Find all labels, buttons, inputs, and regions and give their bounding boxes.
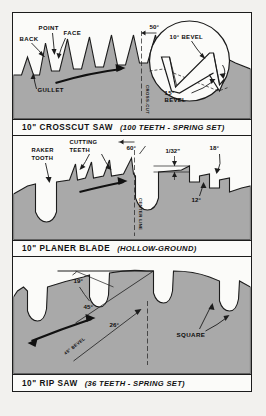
label-face: FACE [64,30,82,36]
caption-planer: 10" PLANER BLADE (HOLLOW-GROUND) [13,240,251,257]
label-angle-19: 19° [74,277,84,284]
caption-crosscut: 10" CROSSCUT SAW (100 TEETH - SPRING SET… [13,119,251,136]
saw-blade-figure: CROSS-CUT 50° BACK POINT FACE [0,0,266,416]
label-center-line: CROSS-CUT [145,85,150,114]
figure-frame: CROSS-CUT 50° BACK POINT FACE [12,12,252,392]
planer-artwork: CENTER LINE 60° RAKER TOOTH CUTTING TEET… [13,136,251,240]
label-raker-tooth-line2: TOOTH [32,155,54,161]
label-bevel-10: 10° BEVEL [170,34,203,40]
label-angle-12: 12° [192,196,202,203]
panel-ripsaw: 19° 45° 26° 45° BEVEL SQUARE [13,257,251,374]
label-thickness: 1/32" [166,148,181,154]
label-angle-50: 50° [150,23,160,30]
caption-ripsaw-main: 10" RIP SAW [22,379,78,388]
panel-planer: CENTER LINE 60° RAKER TOOTH CUTTING TEET… [13,136,251,240]
label-point: POINT [39,25,59,31]
label-square: SQUARE [177,331,206,338]
caption-ripsaw-sub: (36 TEETH - SPRING SET) [85,379,185,388]
label-cutting-teeth-line1: CUTTING [70,139,98,145]
label-gullet: GULLET [38,87,64,93]
panel-crosscut: CROSS-CUT 50° BACK POINT FACE [13,13,251,119]
caption-planer-sub: (HOLLOW-GROUND) [117,244,196,253]
caption-crosscut-main: 10" CROSSCUT SAW [22,123,113,132]
caption-planer-main: 10" PLANER BLADE [22,244,110,253]
label-bevel-15-line2: BEVEL [165,97,187,103]
label-center-line-planer: CENTER LINE [138,198,143,230]
label-angle-45: 45° [84,303,94,310]
label-back: BACK [20,36,39,42]
caption-crosscut-sub: (100 TEETH - SPRING SET) [120,123,225,132]
label-cutting-teeth-line2: TEETH [70,147,91,153]
bevel-inset-circle [150,21,230,101]
label-bevel-15-line1: 15° [165,90,175,96]
label-angle-60: 60° [127,144,137,151]
label-raker-tooth-line1: RAKER [32,147,55,153]
caption-ripsaw: 10" RIP SAW (36 TEETH - SPRING SET) [13,374,251,391]
ripsaw-artwork: 19° 45° 26° 45° BEVEL SQUARE [13,257,251,374]
crosscut-artwork: CROSS-CUT 50° BACK POINT FACE [13,13,251,119]
label-angle-26: 26° [110,321,120,328]
label-angle-18: 18° [210,144,220,151]
